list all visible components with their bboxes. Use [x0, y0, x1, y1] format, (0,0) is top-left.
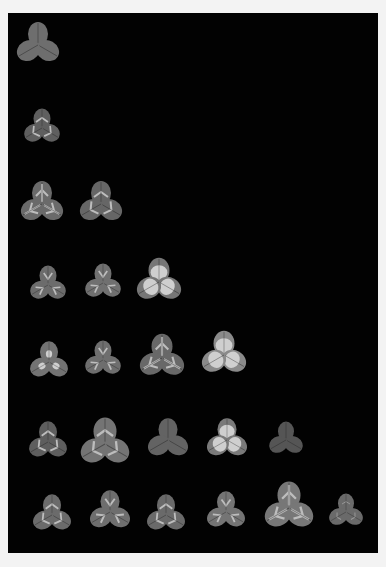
clover-leaf	[27, 265, 69, 302]
clover-leaf	[260, 482, 317, 532]
clover-leaf	[204, 491, 249, 530]
clover-leaf	[82, 340, 124, 377]
clover-leaf	[21, 108, 63, 145]
clover-leaf	[86, 490, 133, 531]
clover-leaf	[30, 494, 75, 533]
clover-leaf	[133, 258, 185, 303]
clover-leaf	[82, 263, 124, 300]
clover-leaf	[144, 418, 191, 459]
clover-leaf	[76, 418, 133, 468]
clover-leaf	[198, 331, 250, 376]
clover-leaf	[76, 181, 126, 224]
clover-leaves-layer	[0, 0, 386, 567]
clover-leaf	[326, 494, 366, 529]
clover-leaf	[26, 421, 71, 460]
clover-leaf	[27, 341, 72, 380]
clover-leaf	[203, 418, 250, 459]
clover-leaf	[13, 22, 63, 65]
clover-leaf	[266, 422, 306, 457]
clover-leaf	[144, 494, 189, 533]
clover-leaf	[17, 181, 67, 224]
clover-leaf	[136, 334, 188, 379]
